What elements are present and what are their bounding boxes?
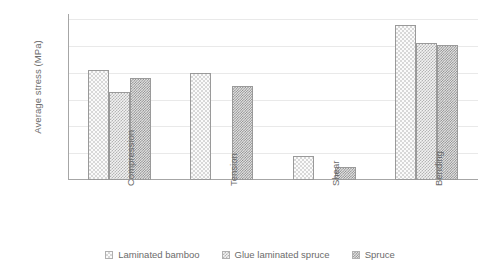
x-axis-category-label: Compression <box>124 106 137 186</box>
bar[interactable] <box>395 25 416 180</box>
legend-item[interactable]: Laminated bamboo <box>105 249 199 260</box>
bar[interactable] <box>88 70 109 180</box>
bar-chart: Average stress (MPa) 102030405060 Compre… <box>0 0 500 278</box>
legend-item-label: Glue laminated spruce <box>235 249 330 260</box>
bar-group <box>293 14 356 180</box>
y-axis-title: Average stress (MPa) <box>30 12 46 162</box>
chart-legend: Laminated bambooGlue laminated spruceSpr… <box>0 249 500 260</box>
bar[interactable] <box>190 73 211 180</box>
legend-item[interactable]: Spruce <box>352 249 395 260</box>
legend-item-label: Laminated bamboo <box>118 249 199 260</box>
legend-item-label: Spruce <box>365 249 395 260</box>
legend-swatch-icon <box>222 251 230 259</box>
bar-group <box>395 14 458 180</box>
bar[interactable] <box>293 156 314 180</box>
legend-item[interactable]: Glue laminated spruce <box>222 249 330 260</box>
legend-swatch-icon <box>352 251 360 259</box>
x-axis-category-label: Shear <box>329 106 342 186</box>
legend-swatch-icon <box>105 251 113 259</box>
x-axis-category-label: Tension <box>227 106 240 186</box>
bar-group <box>190 14 253 180</box>
y-axis-line <box>68 14 69 180</box>
bar-group <box>88 14 151 180</box>
x-axis-category-label: Bending <box>432 106 445 186</box>
